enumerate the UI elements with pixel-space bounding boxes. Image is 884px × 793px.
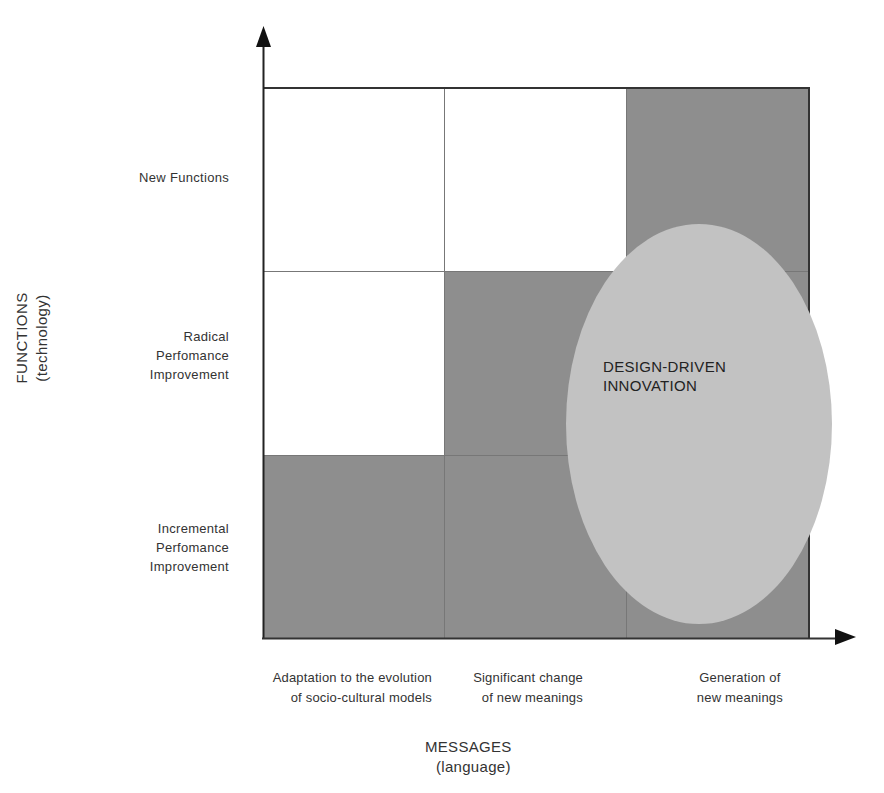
y-level-radical: Radical Perfomance Improvement [150,327,229,384]
x-axis-subtitle-text: (language) [424,757,554,777]
y-level-incremental: Incremental Perfomance Improvement [150,519,229,576]
x-level-label-line: Adaptation to the evolution [273,668,432,688]
x-level-adaptation: Adaptation to the evolution of socio-cul… [273,668,432,708]
x-level-label-line: of socio-cultural models [273,688,432,708]
y-level-label-line: Perfomance [150,538,229,557]
x-level-label-line: Generation of [697,668,783,688]
x-level-significant: Significant change of new meanings [473,668,583,708]
x-level-generation: Generation of new meanings [697,668,783,708]
y-axis-title-text: FUNCTIONS [12,278,32,398]
y-level-label-line: Incremental [150,519,229,538]
y-level-label-line: New Functions [139,169,229,186]
y-level-label-line: Improvement [150,557,229,576]
x-level-label-line: new meanings [697,688,783,708]
x-axis-arrow-icon [835,629,856,645]
y-axis-arrow-icon [256,26,271,47]
x-level-label-line: of new meanings [473,688,583,708]
y-axis-title: FUNCTIONS (technology) [12,278,56,398]
y-level-label-line: Radical [150,327,229,346]
y-level-label-line: Perfomance [150,346,229,365]
x-axis-title: MESSAGES (language) [424,737,554,777]
x-axis-title-text: MESSAGES [424,737,554,757]
y-level-label-line: Improvement [150,365,229,384]
x-level-label-line: Significant change [473,668,583,688]
y-axis-subtitle-text: (technology) [32,278,52,398]
diagram-canvas: DESIGN-DRIVEN INNOVATION FUNCTIONS (tech… [0,0,884,793]
y-level-new-functions: New Functions [139,169,229,186]
